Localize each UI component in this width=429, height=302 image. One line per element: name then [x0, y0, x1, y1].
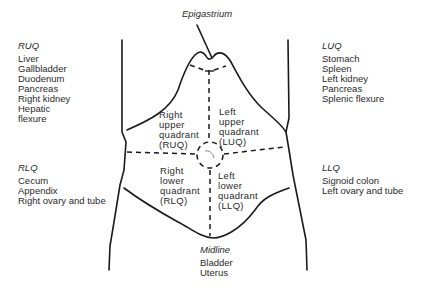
- llq-organ: Left ovary and tube: [322, 186, 403, 196]
- horizontal-left-dashed: [127, 152, 195, 154]
- ruq-organ: flexure: [18, 114, 70, 124]
- rlq-organ: Right ovary and tube: [18, 196, 106, 206]
- quadrant-label-line: (LLQ): [218, 201, 258, 211]
- ruq-organ-list: RUQ Liver Gallbladder Duodenum Pancreas …: [18, 41, 70, 124]
- quadrant-label-line: (RUQ): [159, 140, 199, 150]
- ribcage-outline: [127, 52, 286, 132]
- pelvic-outline: [124, 188, 289, 238]
- rlq-quadrant-label: Right lower quadrant (RLQ): [160, 166, 200, 206]
- luq-heading: LUQ: [322, 41, 384, 51]
- costal-left-dashed: [190, 65, 204, 70]
- torso-left-outline: [109, 40, 126, 270]
- luq-quadrant-label: Left upper quadrant (LUQ): [219, 107, 259, 147]
- quadrant-label-line: (LUQ): [219, 137, 259, 147]
- llq-organ-list: LLQ Signoid colon Left ovary and tube: [322, 163, 403, 196]
- midline-organ: Uterus: [200, 268, 233, 278]
- navel-icon: [205, 151, 214, 158]
- ruq-quadrant-label: Right upper quadrant (RUQ): [159, 110, 199, 150]
- ruq-heading: RUQ: [18, 41, 70, 51]
- llq-heading: LLQ: [322, 163, 403, 173]
- quadrant-label-line: (RLQ): [160, 196, 200, 206]
- torso-right-outline: [286, 40, 307, 270]
- luq-organ: Splenic flexure: [322, 94, 384, 104]
- rlq-heading: RLQ: [18, 163, 106, 173]
- llq-quadrant-label: Left lower quadrant (LLQ): [218, 171, 258, 211]
- horizontal-right-dashed: [224, 147, 284, 154]
- epigastrium-pointer: [197, 25, 212, 58]
- rlq-organ-list: RLQ Cecum Appendix Right ovary and tube: [18, 163, 106, 206]
- epigastrium-label: Epigastrium: [182, 9, 232, 19]
- costal-right-dashed: [214, 66, 226, 70]
- midline-organ-list: Midline Bladder Uterus: [200, 245, 233, 278]
- luq-organ-list: LUQ Stomach Spleen Left kidney Pancreas …: [322, 41, 384, 104]
- midline-heading: Midline: [200, 245, 233, 255]
